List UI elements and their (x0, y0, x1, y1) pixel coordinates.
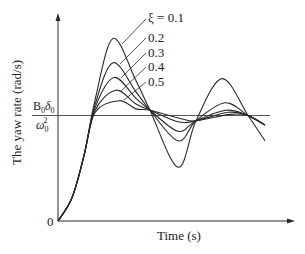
yaw-rate-chart: 0 B0δ0 ω02 The yaw rate (rad/s) Time (s)… (0, 0, 305, 254)
y-tick-zero: 0 (47, 214, 54, 229)
svg-text:B0δ0: B0δ0 (33, 99, 55, 115)
svg-text:ω02: ω02 (36, 116, 48, 134)
series-label-0.3: 0.3 (148, 45, 164, 60)
y-axis-arrow-icon (56, 13, 61, 21)
y-axis-label: The yaw rate (rad/s) (9, 60, 24, 165)
series-label-0.1: ξ = 0.1 (148, 10, 184, 25)
curve-xi-0.3 (58, 77, 265, 221)
leader-xi-0.1 (122, 19, 146, 44)
y-tick-steady-state: B0δ0 ω02 (33, 99, 55, 134)
x-axis-label: Time (s) (157, 228, 201, 243)
series-label-0.2: 0.2 (148, 30, 164, 45)
series-annotations: ξ = 0.1 0.2 0.3 0.4 0.5 (120, 10, 184, 100)
series-label-0.4: 0.4 (148, 59, 165, 74)
curve-xi-0.4 (58, 90, 265, 221)
curve-xi-0.5 (58, 101, 265, 221)
series-label-0.5: 0.5 (148, 74, 164, 89)
x-axis-arrow-icon (287, 219, 295, 224)
